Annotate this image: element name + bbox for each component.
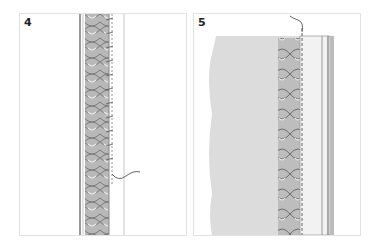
- illustration-panel-5: 5: [193, 13, 361, 236]
- braid-whipstitch-illustration: [20, 14, 186, 235]
- illustration-panel-4: 4: [19, 13, 187, 236]
- braid-hem-illustration: [194, 14, 360, 235]
